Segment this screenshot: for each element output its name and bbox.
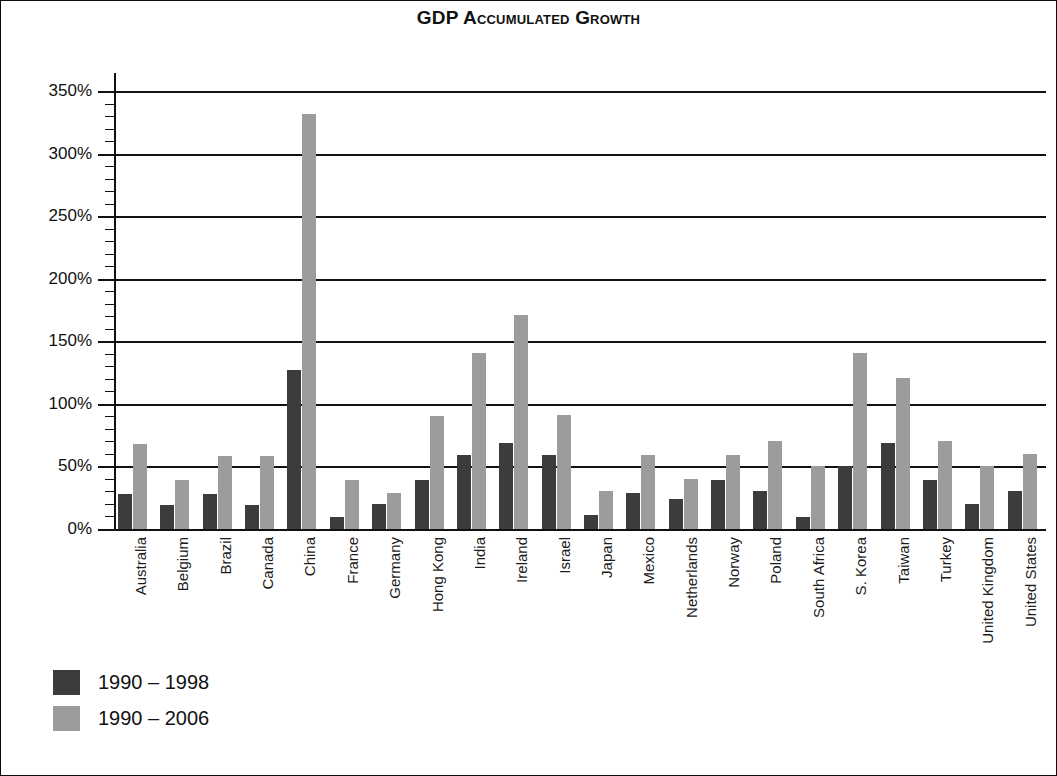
bar[interactable] xyxy=(415,480,429,529)
y-tick-major xyxy=(98,91,114,93)
y-tick-minor xyxy=(105,329,114,330)
bar[interactable] xyxy=(853,353,867,529)
y-tick-minor xyxy=(105,291,114,292)
y-tick-minor xyxy=(105,479,114,480)
bar-group: Mexico xyxy=(622,91,664,529)
legend-item[interactable]: 1990 – 1998 xyxy=(53,664,209,700)
bar[interactable] xyxy=(599,491,613,529)
y-tick-minor xyxy=(105,304,114,305)
bar[interactable] xyxy=(980,466,994,529)
y-tick-minor xyxy=(105,254,114,255)
bar[interactable] xyxy=(838,466,852,529)
bar[interactable] xyxy=(768,441,782,529)
bar-group: Belgium xyxy=(156,91,198,529)
bar[interactable] xyxy=(514,315,528,529)
bar[interactable] xyxy=(881,443,895,529)
bar[interactable] xyxy=(896,378,910,529)
bar[interactable] xyxy=(387,493,401,529)
bar[interactable] xyxy=(218,456,232,529)
bar-group: Taiwan xyxy=(877,91,919,529)
bar[interactable] xyxy=(1023,454,1037,529)
bar-group: Australia xyxy=(114,91,156,529)
x-axis-category-label: Brazil xyxy=(217,537,234,575)
x-axis-category-label: Netherlands xyxy=(683,537,700,618)
bar-group: Canada xyxy=(241,91,283,529)
y-tick-minor xyxy=(105,391,114,392)
bar[interactable] xyxy=(160,505,174,529)
bar[interactable] xyxy=(796,517,810,530)
y-tick-minor xyxy=(105,229,114,230)
bar[interactable] xyxy=(684,479,698,529)
x-axis-line xyxy=(106,529,1046,531)
bar[interactable] xyxy=(345,480,359,529)
y-tick-minor xyxy=(105,104,114,105)
bar-group: Germany xyxy=(368,91,410,529)
y-tick-minor xyxy=(105,516,114,517)
bar-group: S. Korea xyxy=(834,91,876,529)
bar[interactable] xyxy=(118,494,132,529)
bar[interactable] xyxy=(203,494,217,529)
bar[interactable] xyxy=(430,416,444,529)
bar[interactable] xyxy=(472,353,486,529)
bar[interactable] xyxy=(287,370,301,529)
bar[interactable] xyxy=(557,415,571,529)
bar-group: United Kingdom xyxy=(961,91,1003,529)
y-tick-minor xyxy=(105,491,114,492)
bar[interactable] xyxy=(302,114,316,529)
bar[interactable] xyxy=(245,505,259,529)
y-tick-minor xyxy=(105,116,114,117)
bar-group: Netherlands xyxy=(665,91,707,529)
y-tick-major xyxy=(98,466,114,468)
bar[interactable] xyxy=(726,455,740,529)
bar[interactable] xyxy=(938,441,952,529)
bar[interactable] xyxy=(811,466,825,529)
x-axis-category-label: China xyxy=(301,537,318,576)
bar[interactable] xyxy=(175,480,189,529)
bar-group: Turkey xyxy=(919,91,961,529)
bar[interactable] xyxy=(923,480,937,529)
bar[interactable] xyxy=(457,455,471,529)
y-tick-minor xyxy=(105,191,114,192)
x-axis-category-label: Israel xyxy=(556,537,573,574)
bar-group: France xyxy=(326,91,368,529)
bar[interactable] xyxy=(669,499,683,529)
x-axis-category-label: Belgium xyxy=(174,537,191,591)
bar-group: Israel xyxy=(538,91,580,529)
bar-group: Brazil xyxy=(199,91,241,529)
y-tick-minor xyxy=(105,266,114,267)
bar[interactable] xyxy=(133,444,147,529)
x-axis-category-label: Hong Kong xyxy=(429,537,446,612)
x-axis-category-label: South Africa xyxy=(810,537,827,618)
y-axis-tick-label: 350% xyxy=(49,81,92,101)
y-tick-minor xyxy=(105,429,114,430)
y-tick-major xyxy=(98,341,114,343)
legend-item[interactable]: 1990 – 2006 xyxy=(53,700,209,736)
bar-group: India xyxy=(453,91,495,529)
bar[interactable] xyxy=(542,455,556,529)
y-tick-minor xyxy=(105,454,114,455)
y-tick-minor xyxy=(105,441,114,442)
bar-group: South Africa xyxy=(792,91,834,529)
bar[interactable] xyxy=(499,443,513,529)
bar-group: Poland xyxy=(749,91,791,529)
y-axis-tick-label: 100% xyxy=(49,394,92,414)
bar[interactable] xyxy=(372,504,386,529)
y-tick-minor xyxy=(105,366,114,367)
bar[interactable] xyxy=(753,491,767,529)
bar[interactable] xyxy=(260,456,274,529)
bar[interactable] xyxy=(626,493,640,529)
bar[interactable] xyxy=(711,480,725,529)
y-axis-tick-label: 250% xyxy=(49,206,92,226)
bar[interactable] xyxy=(1008,491,1022,529)
chart-legend: 1990 – 19981990 – 2006 xyxy=(53,664,209,736)
bar[interactable] xyxy=(584,515,598,529)
bar[interactable] xyxy=(330,517,344,530)
y-tick-minor xyxy=(105,316,114,317)
legend-label: 1990 – 2006 xyxy=(98,707,209,730)
bar[interactable] xyxy=(641,455,655,529)
x-axis-category-label: Poland xyxy=(767,537,784,584)
x-axis-category-label: India xyxy=(471,537,488,570)
bar-group: Japan xyxy=(580,91,622,529)
bar[interactable] xyxy=(965,504,979,529)
bar-group: United States xyxy=(1004,91,1046,529)
